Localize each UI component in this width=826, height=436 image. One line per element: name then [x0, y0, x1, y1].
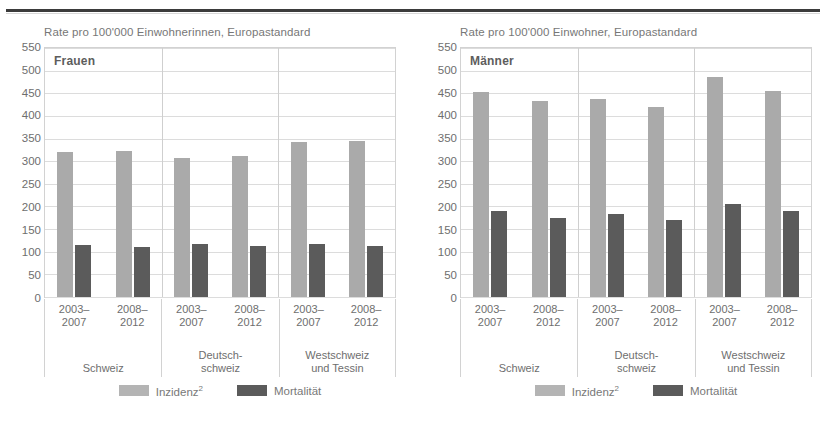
x-axis-frauen: 2003– 2007 2008– 2012 Schweiz 2003–: [44, 299, 396, 377]
x-period-line2: 2007: [478, 316, 502, 328]
x-period-label: 2008– 2012: [519, 303, 577, 329]
x-period-label: 2003– 2007: [45, 303, 103, 329]
legend-maenner: Inzidenz2 Mortalität: [460, 384, 812, 398]
figure-page: Rate pro 100'000 Einwohnerinnen, Europas…: [0, 0, 826, 436]
gridline-250: [461, 184, 811, 185]
y-tick-350: 350: [11, 132, 41, 144]
x-period-label: 2008– 2012: [337, 303, 395, 329]
x-group-line2: schweiz: [201, 362, 240, 374]
gridline-550: [45, 48, 395, 49]
y-tick-200: 200: [11, 201, 41, 213]
x-period-line2: 2007: [62, 316, 86, 328]
x-period-label: 2003– 2007: [578, 303, 636, 329]
legend-swatch-icon-mortalitaet: [653, 385, 683, 396]
x-period-line1: 2008–: [234, 303, 265, 315]
y-tick-450: 450: [427, 87, 457, 99]
x-period-line2: 2007: [712, 316, 736, 328]
bar-inzidenz: [349, 141, 365, 297]
gridline-50: [461, 274, 811, 275]
x-group-westschweiz-tessin: 2003– 2007 2008– 2012 Westschweiz und Te…: [695, 299, 812, 377]
bar-mortalitaet: [134, 247, 150, 297]
x-group-name: Westschweiz und Tessin: [280, 349, 395, 375]
x-group-name: Schweiz: [45, 349, 161, 375]
y-tick-50: 50: [427, 269, 457, 281]
y-tick-150: 150: [427, 224, 457, 236]
bar-mortalitaet: [367, 246, 383, 297]
x-period-line2: 2007: [179, 316, 203, 328]
gridline-300: [461, 161, 811, 162]
x-period-line2: 2007: [296, 316, 320, 328]
y-tick-500: 500: [11, 64, 41, 76]
x-period-line1: 2003–: [293, 303, 324, 315]
y-tick-300: 300: [427, 155, 457, 167]
plot-area-frauen: Frauen: [44, 47, 396, 298]
gridline-500: [45, 71, 395, 72]
chart-axis-title-maenner: Rate pro 100'000 Einwohner, Europastanda…: [460, 26, 697, 38]
y-tick-450: 450: [11, 87, 41, 99]
gridline-250: [45, 184, 395, 185]
bar-inzidenz: [116, 151, 132, 297]
x-period-line1: 2003–: [176, 303, 207, 315]
legend-item-mortalitaet[interactable]: Mortalität: [237, 384, 321, 398]
x-period-label: 2003– 2007: [280, 303, 338, 329]
y-axis-frauen: 550 500 450 400 350 300 250 200 150 100 …: [8, 47, 41, 298]
gridline-0: [461, 297, 811, 298]
x-period-label: 2003– 2007: [162, 303, 220, 329]
chart-axis-title-frauen: Rate pro 100'000 Einwohnerinnen, Europas…: [44, 26, 310, 38]
y-tick-500: 500: [427, 64, 457, 76]
bar-inzidenz: [648, 107, 664, 297]
group-separator: [578, 48, 579, 297]
bar-mortalitaet: [309, 244, 325, 297]
bar-inzidenz: [532, 101, 548, 297]
gridline-550: [461, 48, 811, 49]
x-period-line1: 2008–: [650, 303, 681, 315]
gridline-300: [45, 161, 395, 162]
x-period-line1: 2003–: [592, 303, 623, 315]
x-period-line2: 2007: [595, 316, 619, 328]
legend-label-text: Inzidenz: [572, 386, 615, 398]
group-separator: [694, 48, 695, 297]
chart-panel-frauen: Rate pro 100'000 Einwohnerinnen, Europas…: [8, 22, 408, 432]
gridline-200: [461, 206, 811, 207]
top-divider-shadow: [6, 13, 820, 14]
bar-inzidenz: [57, 152, 73, 297]
gridline-150: [45, 229, 395, 230]
x-group-schweiz: 2003– 2007 2008– 2012 Schweiz: [460, 299, 577, 377]
gridline-450: [461, 93, 811, 94]
y-tick-150: 150: [11, 224, 41, 236]
y-tick-550: 550: [427, 41, 457, 53]
bar-inzidenz: [765, 91, 781, 297]
gridline-100: [45, 252, 395, 253]
gridline-50: [45, 274, 395, 275]
top-divider-rule: [6, 9, 820, 12]
x-period-line1: 2003–: [709, 303, 740, 315]
x-period-label: 2008– 2012: [637, 303, 695, 329]
bar-inzidenz: [590, 99, 606, 297]
plot-area-maenner: Männer: [460, 47, 812, 298]
y-tick-100: 100: [427, 246, 457, 258]
legend-item-inzidenz[interactable]: Inzidenz2: [535, 384, 619, 398]
x-group-deutschschweiz: 2003– 2007 2008– 2012 Deutsch- schweiz: [161, 299, 278, 377]
legend-label-mortalitaet: Mortalität: [690, 385, 737, 397]
x-group-line2: Schweiz: [83, 362, 124, 374]
gridline-150: [461, 229, 811, 230]
legend-swatch-icon-mortalitaet: [237, 385, 267, 396]
group-separator: [278, 48, 279, 297]
gridline-450: [45, 93, 395, 94]
legend-swatch-icon-inzidenz: [535, 385, 565, 396]
series-title-frauen: Frauen: [54, 54, 95, 68]
bar-mortalitaet: [192, 244, 208, 297]
legend-label-text: Inzidenz: [156, 386, 199, 398]
x-period-label: 2008– 2012: [103, 303, 161, 329]
bar-inzidenz: [232, 156, 248, 297]
x-period-line2: 2012: [120, 316, 144, 328]
x-period-line1: 2003–: [475, 303, 506, 315]
y-tick-250: 250: [427, 178, 457, 190]
bar-mortalitaet: [550, 218, 566, 297]
gridline-0: [45, 297, 395, 298]
legend-item-mortalitaet[interactable]: Mortalität: [653, 384, 737, 398]
y-tick-250: 250: [11, 178, 41, 190]
legend-label-mortalitaet: Mortalität: [274, 385, 321, 397]
legend-item-inzidenz[interactable]: Inzidenz2: [119, 384, 203, 398]
x-group-schweiz: 2003– 2007 2008– 2012 Schweiz: [44, 299, 161, 377]
